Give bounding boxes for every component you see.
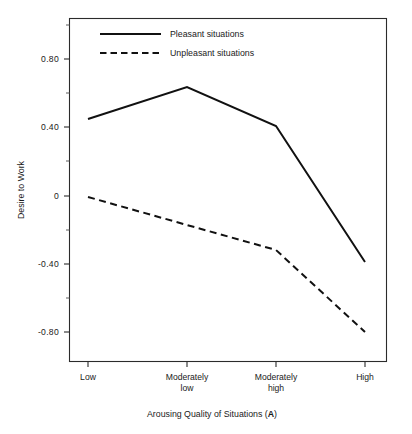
y-tick-label-0: 0.80 — [41, 54, 59, 64]
y-axis-tick-labels: 0.80 0.40 0 -0.40 -0.80 — [38, 54, 59, 337]
y-tick-label-4: -0.80 — [38, 327, 59, 337]
x-axis-title: Arousing Quality of Situations (A) — [147, 409, 277, 419]
x-axis-title-main: Arousing Quality of Situations ( — [147, 409, 268, 419]
x-tick-label-modhigh-line1: Moderately — [255, 372, 298, 382]
series-unpleasant-situations — [88, 197, 365, 332]
y-axis-title: Desire to Work — [16, 160, 26, 219]
legend-label-unpleasant: Unpleasant situations — [170, 48, 255, 58]
y-tick-label-2: 0 — [54, 191, 59, 201]
x-tick-label-modlow-line1: Moderately — [166, 372, 209, 382]
chart-legend: Pleasant situations Unpleasant situation… — [100, 29, 255, 58]
line-chart: 0.80 0.40 0 -0.40 -0.80 Desire to Work L… — [0, 0, 412, 434]
x-tick-label-modlow-line2: low — [181, 383, 195, 393]
x-tick-label-high-line1: High — [356, 372, 374, 382]
plot-frame — [70, 19, 387, 362]
y-tick-label-3: -0.40 — [38, 259, 59, 269]
x-axis-tick-labels: Low Moderately low Moderately high High — [80, 372, 374, 393]
legend-label-pleasant: Pleasant situations — [170, 29, 244, 39]
x-tick-label-low-line1: Low — [80, 372, 97, 382]
y-tick-label-1: 0.40 — [41, 122, 59, 132]
chart-figure: 0.80 0.40 0 -0.40 -0.80 Desire to Work L… — [0, 0, 412, 434]
x-tick-label-modhigh-line2: high — [268, 383, 284, 393]
svg-text:Arousing Quality of Situations: Arousing Quality of Situations (A) — [147, 409, 277, 419]
x-axis-title-tail: ) — [274, 409, 277, 419]
